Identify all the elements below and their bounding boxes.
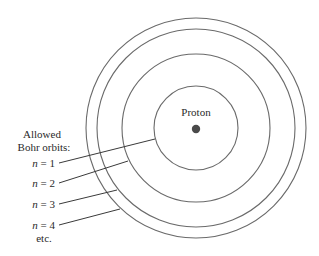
- legend-item-n1: n = 1: [32, 157, 55, 169]
- legend-item-n4: n = 4: [32, 219, 55, 231]
- legend-heading-line2: Bohr orbits:: [18, 141, 71, 153]
- leader-n4: [59, 209, 120, 225]
- legend-heading-line1: Allowed: [23, 128, 61, 140]
- legend-etc: etc.: [36, 232, 52, 244]
- leader-n2: [59, 161, 128, 183]
- legend-item-n2: n = 2: [32, 177, 55, 189]
- legend-item-n3: n = 3: [32, 198, 55, 210]
- leader-n3: [59, 190, 117, 204]
- leader-n1: [59, 139, 155, 163]
- leader-lines: [59, 139, 155, 225]
- legend: Allowed Bohr orbits: n = 1 n = 2 n = 3 n…: [18, 128, 71, 244]
- proton-dot: [192, 125, 200, 133]
- proton-label: Proton: [181, 106, 211, 118]
- bohr-orbits-diagram: Proton Allowed Bohr orbits: n = 1 n = 2 …: [0, 0, 319, 256]
